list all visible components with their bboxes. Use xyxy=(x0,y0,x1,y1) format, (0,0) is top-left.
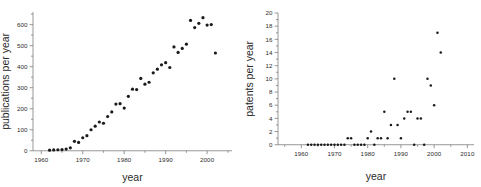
data-point xyxy=(168,66,171,69)
data-point xyxy=(181,47,184,50)
data-point xyxy=(206,23,209,26)
x-axis-tick-label: 1980 xyxy=(117,156,132,163)
data-point xyxy=(81,136,84,139)
data-point xyxy=(114,103,117,106)
data-point xyxy=(139,77,142,80)
data-point xyxy=(65,148,68,151)
data-point xyxy=(376,137,379,140)
y-axis-title: patents per year xyxy=(243,40,255,116)
y-axis-tick-label: 12 xyxy=(265,62,273,69)
data-point xyxy=(410,111,413,114)
data-point xyxy=(330,143,333,146)
data-point xyxy=(123,107,126,110)
y-axis-tick-label: 0 xyxy=(24,147,28,154)
data-point xyxy=(214,51,217,54)
data-point xyxy=(131,88,134,91)
y-axis-ticks: 02468101214161820 xyxy=(265,9,278,148)
data-point xyxy=(386,137,389,140)
data-point xyxy=(403,117,406,120)
y-axis-tick-label: 20 xyxy=(265,9,273,16)
publications-scatter-plot: 196019701980199020000100200300400500600y… xyxy=(0,0,240,187)
x-axis-ticks: 19601970198019902000 xyxy=(34,151,214,163)
data-point xyxy=(156,68,159,71)
data-point xyxy=(320,143,323,146)
data-point xyxy=(440,51,443,54)
patents-scatter-plot: 1960197019801990200020100246810121416182… xyxy=(240,0,481,187)
data-point xyxy=(118,102,121,105)
y-axis-tick-label: 300 xyxy=(17,84,28,91)
data-point xyxy=(366,137,369,140)
data-point xyxy=(48,149,51,152)
x-axis-tick-label: 2000 xyxy=(427,150,442,157)
data-point xyxy=(85,134,88,137)
data-point xyxy=(307,143,310,146)
data-point xyxy=(383,111,386,114)
y-axis-tick-label: 2 xyxy=(269,128,273,135)
y-axis-tick-label: 0 xyxy=(269,141,273,148)
data-point xyxy=(197,22,200,25)
data-point xyxy=(185,43,188,46)
data-point xyxy=(310,143,313,146)
data-point xyxy=(94,125,97,128)
x-axis-tick-label: 1990 xyxy=(394,150,409,157)
y-axis-tick-label: 4 xyxy=(269,115,273,122)
y-axis-tick-label: 500 xyxy=(17,42,28,49)
patents-chart-panel: 1960197019801990200020100246810121416182… xyxy=(240,0,481,187)
data-point xyxy=(127,95,130,98)
data-point xyxy=(343,143,346,146)
data-point xyxy=(110,110,113,113)
data-point xyxy=(177,51,180,54)
data-point xyxy=(360,143,363,146)
x-axis-tick-label: 1970 xyxy=(76,156,91,163)
data-point xyxy=(413,143,416,146)
data-point xyxy=(160,63,163,66)
x-axis-tick-label: 1960 xyxy=(294,150,309,157)
data-point xyxy=(102,122,105,125)
x-axis-tick-label: 2000 xyxy=(200,156,215,163)
y-axis-tick-label: 600 xyxy=(17,21,28,28)
data-point xyxy=(396,124,399,127)
data-point xyxy=(60,148,63,151)
data-point xyxy=(193,26,196,29)
data-point xyxy=(172,45,175,48)
axes-group: 196019701980199020000100200300400500600 xyxy=(17,12,232,163)
data-point xyxy=(430,84,433,87)
data-point xyxy=(210,23,213,26)
data-point xyxy=(52,148,55,151)
figure-root: 196019701980199020000100200300400500600y… xyxy=(0,0,481,187)
data-point xyxy=(152,71,155,74)
publications-chart-panel: 196019701980199020000100200300400500600y… xyxy=(0,0,240,187)
data-point xyxy=(436,32,439,35)
data-point xyxy=(69,146,72,149)
x-axis-tick-label: 1980 xyxy=(361,150,376,157)
data-point xyxy=(390,124,393,127)
data-point xyxy=(416,117,419,120)
data-point xyxy=(370,130,373,133)
y-axis-tick-label: 16 xyxy=(265,36,273,43)
data-point xyxy=(164,61,167,64)
data-point xyxy=(189,19,192,22)
data-point xyxy=(323,143,326,146)
data-point xyxy=(400,137,403,140)
data-point xyxy=(135,88,138,91)
y-axis-tick-label: 400 xyxy=(17,63,28,70)
data-point xyxy=(77,141,80,144)
x-axis-tick-label: 2010 xyxy=(460,150,475,157)
data-point xyxy=(56,148,59,151)
data-point xyxy=(423,143,426,146)
data-point xyxy=(340,143,343,146)
y-axis-tick-label: 200 xyxy=(17,105,28,112)
data-point xyxy=(106,115,109,118)
data-point xyxy=(337,143,340,146)
y-axis-tick-label: 14 xyxy=(265,49,273,56)
data-point xyxy=(317,143,320,146)
data-point xyxy=(393,78,396,81)
data-point xyxy=(347,137,350,140)
y-axis-tick-label: 8 xyxy=(269,88,273,95)
x-axis-title: year xyxy=(366,170,387,182)
data-point xyxy=(147,81,150,84)
x-axis-tick-label: 1990 xyxy=(159,156,174,163)
x-axis-tick-label: 1970 xyxy=(327,150,342,157)
y-axis-ticks: 0100200300400500600 xyxy=(17,21,33,154)
data-point xyxy=(356,143,359,146)
